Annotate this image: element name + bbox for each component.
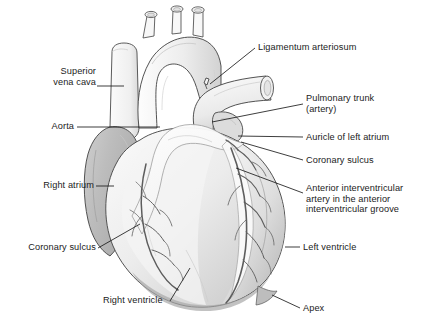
label-coronary-sulcus-right: Coronary sulcus <box>306 155 418 166</box>
label-aorta: Aorta <box>6 121 74 132</box>
great-vessels-group <box>110 6 274 143</box>
left-common-carotid-inner <box>174 8 181 11</box>
label-pulmonary-trunk: Pulmonary trunk (artery) <box>306 93 422 114</box>
label-coronary-sulcus-left: Coronary sulcus <box>2 242 96 253</box>
label-apex: Apex <box>303 303 373 314</box>
label-anterior-interventricular-artery: Anterior interventricular artery in the … <box>306 183 424 215</box>
label-auricle-of-left-atrium: Auricle of left atrium <box>306 132 424 143</box>
heart-chambers-group <box>84 125 285 312</box>
leader-auricle-of-left-atrium <box>238 136 303 137</box>
ascending-aorta-highlight <box>162 76 168 110</box>
label-right-ventricle: Right ventricle <box>103 295 213 306</box>
left-subclavian-inner <box>195 9 202 13</box>
leader-apex <box>272 295 300 308</box>
label-left-ventricle: Left ventricle <box>303 242 413 253</box>
label-right-atrium: Right atrium <box>6 180 94 191</box>
label-ligamentum-arteriosum: Ligamentum arteriosum <box>258 42 418 53</box>
label-superior-vena-cava: Superior vena cava <box>6 66 96 87</box>
pulmonary-trunk-inner <box>264 80 271 95</box>
brachiocephalic-inner <box>148 13 155 16</box>
heart-anatomy-figure: Superior vena cava Aorta Right atrium Co… <box>0 0 424 331</box>
